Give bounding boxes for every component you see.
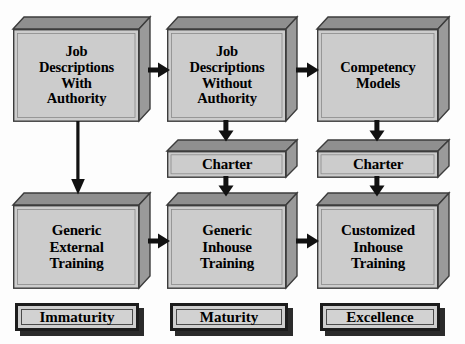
arrow-icon-r1c2-to-r2c2: [218, 120, 234, 142]
node-job-descriptions-without-authority[interactable]: Job Descriptions Without Authority: [167, 17, 297, 122]
node-customized-inhouse-training[interactable]: Customized Inhouse Training: [317, 193, 449, 289]
arrow-icon-r3c2-to-r3c3: [296, 233, 319, 249]
diagram-canvas: Job Descriptions With Authority Job Desc…: [0, 0, 465, 344]
arrow-icon-r1c1-to-r1c2: [148, 62, 170, 78]
node-job-descriptions-with-authority[interactable]: Job Descriptions With Authority: [13, 17, 150, 122]
arrow-icon-r2c2-to-r3c2: [218, 176, 234, 197]
badge-frame: Excellence: [320, 303, 440, 331]
node-charter-column-3[interactable]: Charter: [317, 140, 449, 178]
arrow-icon-r3c1-to-r3c2: [148, 233, 170, 249]
arrow-icon-r1c3-to-r2c3: [369, 120, 385, 142]
badge-label: Immaturity: [21, 309, 133, 325]
node-competency-models[interactable]: Competency Models: [317, 17, 449, 122]
status-badge-excellence[interactable]: Excellence: [320, 303, 440, 331]
arrow-icon-r1c2-to-r1c3: [296, 62, 319, 78]
node-generic-external-training[interactable]: Generic External Training: [13, 193, 150, 289]
status-badge-immaturity[interactable]: Immaturity: [15, 303, 139, 331]
status-badge-maturity[interactable]: Maturity: [170, 303, 288, 331]
node-charter-column-2[interactable]: Charter: [167, 140, 297, 178]
badge-label: Excellence: [326, 309, 434, 325]
badge-frame: Maturity: [170, 303, 288, 331]
arrow-icon-r1c1-to-r3c1: [70, 121, 86, 195]
arrow-icon-r2c3-to-r3c3: [369, 176, 385, 197]
badge-frame: Immaturity: [15, 303, 139, 331]
node-generic-inhouse-training[interactable]: Generic Inhouse Training: [167, 193, 297, 289]
badge-label: Maturity: [176, 309, 282, 325]
